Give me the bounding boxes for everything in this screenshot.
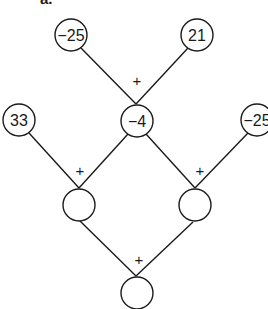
operator-plus-bottom: +: [135, 251, 144, 268]
node-mid-left: 33: [3, 104, 35, 136]
node-low-right[interactable]: [179, 189, 211, 221]
node-mid-right: −25: [241, 104, 268, 136]
node-mid-center: −4: [121, 105, 153, 137]
edge-low-left-to-bottom: [80, 221, 136, 276]
node-value: −25: [57, 27, 84, 44]
operator-plus-top: +: [133, 72, 142, 89]
node-value: −4: [128, 113, 146, 130]
edge-top-left-to-mid-center: [81, 48, 136, 104]
part-label: a.: [40, 0, 53, 7]
edge-top-right-to-mid-center: [136, 48, 188, 104]
edge-mid-left-to-low-left: [29, 133, 79, 188]
diagram-svg: a. + + + + −25 21 33 −4: [0, 0, 268, 309]
node-value: 21: [188, 27, 206, 44]
node-top-left: −25: [55, 19, 87, 51]
edge-low-right-to-bottom: [136, 222, 193, 276]
node-top-right: 21: [181, 19, 213, 51]
operator-plus-low-right: +: [196, 162, 205, 179]
node-bottom[interactable]: [121, 277, 153, 309]
operator-plus-low-left: +: [76, 162, 85, 179]
edge-mid-right-to-low-right: [195, 133, 248, 188]
node-value: 33: [10, 112, 28, 129]
edge-mid-center-to-low-left: [79, 134, 128, 188]
node-value: −25: [243, 112, 268, 129]
edge-mid-center-to-low-right: [146, 134, 195, 188]
addition-tree-diagram: a. + + + + −25 21 33 −4: [0, 0, 268, 309]
node-low-left[interactable]: [63, 189, 95, 221]
